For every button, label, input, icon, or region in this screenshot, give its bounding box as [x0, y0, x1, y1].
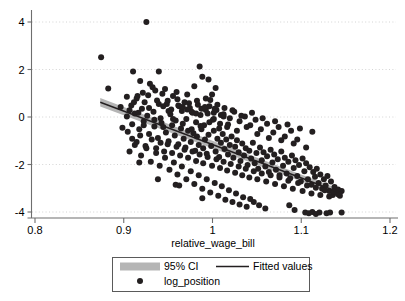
scatter-point [143, 19, 149, 25]
scatter-point [155, 176, 161, 182]
scatter-point [166, 167, 172, 173]
scatter-point [174, 171, 180, 177]
scatter-point [191, 83, 197, 89]
scatter-point [277, 175, 283, 181]
scatter-point [254, 131, 260, 137]
scatter-point [203, 95, 209, 101]
scatter-point [202, 104, 208, 110]
scatter-point [317, 171, 323, 177]
scatter-point [151, 124, 157, 130]
scatter-point [232, 144, 238, 150]
scatter-point [215, 193, 221, 199]
scatter-point [259, 171, 265, 177]
scatter-point [209, 91, 215, 97]
scatter-point [161, 148, 167, 154]
scatter-point [212, 180, 218, 186]
scatter-point [324, 173, 330, 179]
scatter-point [205, 110, 211, 116]
scatter-point [264, 121, 270, 127]
scatter-point [189, 126, 195, 132]
scatter-point [169, 150, 175, 156]
scatter-point [124, 114, 130, 120]
scatter-point [313, 185, 319, 191]
scatter-point [228, 161, 234, 167]
scatter-point [253, 150, 259, 156]
scatter-point [292, 157, 298, 163]
scatter-point [146, 131, 152, 137]
scatter-point [250, 140, 256, 146]
scatter-point [272, 118, 278, 124]
scatter-point [266, 135, 272, 141]
scatter-point [129, 121, 135, 127]
scatter-point [276, 124, 282, 130]
scatter-point [156, 68, 162, 74]
scatter-point [219, 183, 225, 189]
scatter-point [199, 195, 205, 201]
scatter-point [269, 160, 275, 166]
scatter-point [275, 156, 281, 162]
scatter-point [138, 152, 144, 158]
y-tick-label: -4 [15, 206, 25, 218]
scatter-point [137, 78, 143, 84]
scatter-point [206, 132, 212, 138]
scatter-point [232, 170, 238, 176]
scatter-point [309, 129, 315, 135]
scatter-point [127, 148, 133, 154]
y-tick-label: 0 [18, 111, 24, 123]
scatter-point [153, 145, 159, 151]
scatter-point [234, 128, 240, 134]
scatter-point [199, 74, 205, 80]
scatter-point [162, 155, 168, 161]
scatter-point [98, 54, 104, 60]
y-tick-label: 2 [18, 64, 24, 76]
scatter-point [119, 125, 125, 131]
scatter-point [251, 168, 257, 174]
scatter-point [198, 123, 204, 129]
scatter-point [142, 99, 148, 105]
scatter-point [281, 183, 287, 189]
scatter-point [190, 148, 196, 154]
scatter-point [300, 156, 306, 162]
scatter-point [144, 113, 150, 119]
scatter-point [217, 165, 223, 171]
x-axis-title: relative_wage_bill [171, 237, 254, 249]
scatter-point [146, 105, 152, 111]
scatter-point [216, 125, 222, 131]
scatter-point [239, 141, 245, 147]
scatter-point [188, 168, 194, 174]
scatter-point [243, 166, 249, 172]
scatter-point [179, 163, 185, 169]
scatter-point [135, 93, 141, 99]
scatter-point [166, 108, 172, 114]
x-tick-label: 1.2 [382, 224, 397, 236]
scatter-point [268, 147, 274, 153]
scatter-point [206, 76, 212, 82]
scatter-point [256, 202, 262, 208]
scatter-point [237, 118, 243, 124]
scatter-point [249, 110, 255, 116]
scatter-point [205, 154, 211, 160]
scatter-point [251, 199, 257, 205]
scatter-point [236, 163, 242, 169]
scatter-point [181, 136, 187, 142]
scatter-point [314, 166, 320, 172]
x-tick-label: 0.9 [116, 224, 131, 236]
scatter-point [145, 92, 151, 98]
scatter-point [163, 129, 169, 135]
scatter-point [296, 162, 302, 168]
scatter-point [244, 204, 250, 210]
scatter-point [316, 209, 322, 215]
scatter-point [177, 152, 183, 158]
scatter-point [303, 144, 309, 150]
scatter-point [291, 165, 297, 171]
scatter-point [182, 147, 188, 153]
scatter-point [221, 111, 227, 117]
scatter-point [225, 152, 231, 158]
scatter-point [229, 199, 235, 205]
scatter-point [212, 106, 218, 112]
scatter-point [137, 133, 143, 139]
scatter-point [140, 90, 146, 96]
scatter-point [130, 68, 136, 74]
plot-canvas: 0.80.911.11.2 420-2-4 relative_wage_bill… [0, 0, 405, 301]
scatter-point [291, 141, 297, 147]
